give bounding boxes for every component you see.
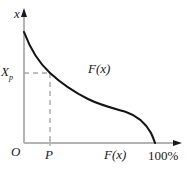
x-axis-max-label: 100% <box>148 149 178 162</box>
y-axis-label: x <box>14 7 20 20</box>
y-value-base: X <box>1 64 9 79</box>
origin-label: O <box>11 145 20 158</box>
x-axis-label: F(x) <box>104 148 126 161</box>
y-value-label: Xp <box>1 65 13 82</box>
x-axis-arrow-icon <box>173 140 182 146</box>
curve-label: F(x) <box>88 62 110 75</box>
y-value-subscript: p <box>9 73 13 82</box>
distribution-curve <box>24 32 155 143</box>
figure-container: x Xp F(x) O P F(x) 100% <box>0 0 189 169</box>
y-axis-arrow-icon <box>21 8 27 17</box>
plot-canvas <box>0 0 189 169</box>
x-tick-label-p: P <box>45 148 53 161</box>
